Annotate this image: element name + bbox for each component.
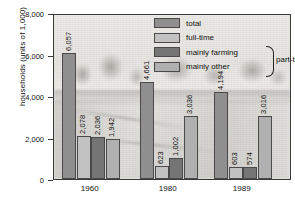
y-axis-tick-label: 2,000	[25, 134, 44, 143]
bar	[214, 92, 228, 179]
bar-chart: households (units of 1,000) 02,0004,0006…	[0, 0, 295, 206]
y-axis-tick	[48, 180, 53, 181]
part-time-annotation: part-time	[276, 55, 295, 64]
legend-label: full-time	[186, 33, 214, 42]
legend-label: mainly farming	[186, 48, 238, 57]
bar	[140, 82, 154, 179]
part-time-brace-icon	[266, 46, 274, 77]
bar	[91, 137, 105, 179]
y-axis-tick-label: 4,000	[25, 93, 44, 102]
bar	[169, 158, 183, 179]
bar	[77, 136, 91, 179]
legend-item: total	[154, 16, 286, 31]
legend-item: full-time	[154, 31, 286, 46]
bar-value-label: 3,036	[185, 95, 194, 114]
legend-label: mainly other	[186, 62, 230, 71]
bar-value-label: 1,942	[107, 117, 116, 136]
legend-swatch	[154, 47, 180, 57]
bar	[106, 139, 120, 179]
legend-swatch	[154, 62, 180, 72]
bar-value-label: 4,661	[142, 61, 151, 80]
bar	[62, 53, 76, 179]
x-axis-tick-label: 1980	[159, 184, 177, 193]
legend-label: total	[186, 19, 201, 28]
bar	[243, 167, 257, 179]
bar-value-label: 2,078	[78, 115, 87, 134]
y-axis-tick-label: 6,000	[25, 51, 44, 60]
legend: totalfull-timemainly farmingmainly other…	[154, 16, 286, 74]
bar	[184, 116, 198, 179]
y-axis-title: households (units of 1,000)	[18, 0, 27, 127]
bar-value-label: 3,016	[259, 95, 268, 114]
bar-value-label: 1,002	[171, 137, 180, 156]
bar	[229, 167, 243, 180]
x-axis-tick-label: 1989	[233, 184, 251, 193]
bar-value-label: 623	[156, 151, 165, 164]
legend-swatch	[154, 33, 180, 43]
y-axis-tick-label: 0	[40, 176, 44, 185]
bar-value-label: 2,036	[93, 115, 102, 134]
x-axis-tick-label: 1960	[81, 184, 99, 193]
bar	[258, 116, 272, 179]
bar-value-label: 574	[245, 152, 254, 165]
y-axis-tick-label: 8,000	[25, 10, 44, 19]
bar-value-label: 6,057	[64, 32, 73, 51]
bar-value-label: 603	[230, 152, 239, 165]
bar	[155, 166, 169, 179]
legend-swatch	[154, 18, 180, 28]
